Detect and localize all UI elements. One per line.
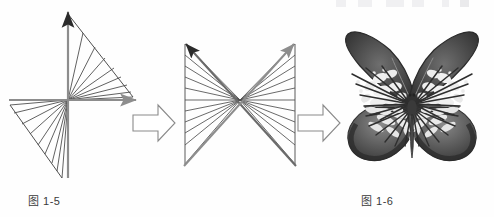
fan-lower-left: [10, 100, 68, 178]
arrow-upper-right: [184, 44, 294, 166]
scan-artifact: [336, 0, 346, 7]
figure-panel-1-5: 图 1-5: [0, 0, 150, 217]
diagonal-arrows: [184, 44, 296, 166]
fan-left: [185, 44, 240, 164]
figure-1-5-drawing: [0, 0, 150, 190]
fan-right: [240, 44, 295, 164]
butterfly-photograph: [330, 0, 494, 190]
figure-panel-1-6: 图 1-6: [165, 0, 315, 217]
butterfly-body-group: [346, 32, 479, 161]
figure-caption-1-5: 图 1-5: [28, 192, 60, 208]
figure-1-6-drawing: [165, 0, 315, 190]
figure-panel-1-7: 图 1-7: [330, 0, 494, 217]
scan-artifact: [442, 0, 449, 7]
scan-artifact: [386, 0, 404, 7]
scan-artifact: [412, 0, 424, 7]
scan-artifact: [460, 0, 469, 7]
scan-artifact: [358, 0, 372, 7]
arrow-upper-left: [186, 44, 296, 166]
fan-upper-right: [68, 14, 133, 100]
